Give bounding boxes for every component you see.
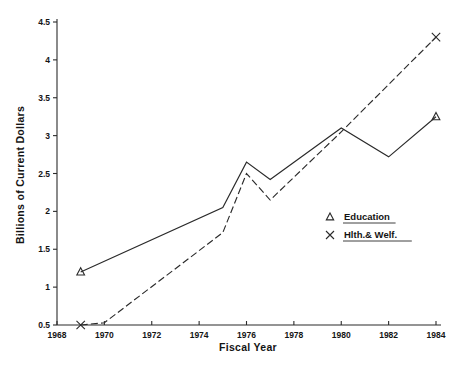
axes-group bbox=[57, 19, 441, 325]
x-axis-title: Fiscal Year bbox=[219, 341, 277, 353]
y-tick-label: 2 bbox=[45, 206, 50, 216]
x-tick-label: 1970 bbox=[95, 330, 114, 340]
legend-marker-triangle bbox=[326, 213, 333, 220]
x-tick-label: 1968 bbox=[48, 330, 67, 340]
y-axis-title: Billions of Current Dollars bbox=[14, 106, 26, 244]
x-tick-label: 1978 bbox=[284, 330, 303, 340]
legend-marker-x bbox=[326, 231, 334, 239]
y-tick-label: 4 bbox=[45, 55, 50, 65]
y-tick-label: 4.5 bbox=[38, 17, 50, 27]
y-tick-label-group: 0.511.522.533.544.5 bbox=[38, 17, 50, 330]
series-group bbox=[81, 37, 436, 325]
y-tick-label: 2.5 bbox=[38, 169, 50, 179]
x-tick-label: 1980 bbox=[332, 330, 351, 340]
series-line-hlth-welf bbox=[81, 37, 436, 325]
y-tick-label: 1.5 bbox=[38, 244, 50, 254]
chart-container: 196819701972197419761978198019821984 0.5… bbox=[0, 0, 455, 367]
x-tick-label: 1974 bbox=[190, 330, 209, 340]
x-tick-group bbox=[57, 321, 436, 325]
y-tick-label: 3 bbox=[45, 131, 50, 141]
marker-x bbox=[432, 33, 440, 41]
y-tick-group bbox=[53, 22, 57, 325]
y-tick-label: 0.5 bbox=[38, 320, 50, 330]
line-chart-plot: 196819701972197419761978198019821984 0.5… bbox=[0, 0, 455, 367]
x-tick-label: 1976 bbox=[237, 330, 256, 340]
legend-item-label[interactable]: Education bbox=[344, 211, 390, 222]
x-tick-label-group: 196819701972197419761978198019821984 bbox=[48, 330, 446, 340]
y-tick-label: 3.5 bbox=[38, 93, 50, 103]
legend-item-label[interactable]: Hlth.& Welf. bbox=[344, 229, 397, 240]
chart-legend: EducationHlth.& Welf. bbox=[326, 211, 412, 241]
marker-group bbox=[76, 33, 440, 329]
marker-triangle bbox=[432, 112, 440, 119]
x-tick-label: 1972 bbox=[142, 330, 161, 340]
y-tick-label: 1 bbox=[45, 282, 50, 292]
x-tick-label: 1984 bbox=[427, 330, 446, 340]
series-line-education bbox=[81, 117, 436, 272]
x-tick-label: 1982 bbox=[379, 330, 398, 340]
